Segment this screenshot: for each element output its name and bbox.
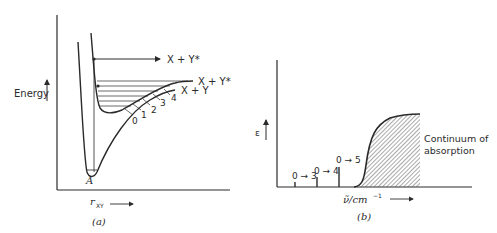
wavenumber-superscript: −1 xyxy=(373,192,382,199)
energy-label: Energy xyxy=(14,88,49,99)
figure: Energy A X + Y* X + Y* X + Y xyxy=(0,0,497,233)
caption-b: (b) xyxy=(357,211,371,222)
ground-state-curve xyxy=(78,42,175,177)
label-0-5: 0 → 5 xyxy=(336,155,361,165)
svg-text:0: 0 xyxy=(132,116,138,126)
minimum-label-a: A xyxy=(85,175,93,186)
level-labels: 0 1 2 3 4 xyxy=(125,89,177,126)
label-0-3: 0 → 3 xyxy=(292,171,317,181)
panel-a: Energy A X + Y* X + Y* X + Y xyxy=(14,15,231,227)
svg-text:4: 4 xyxy=(171,93,177,103)
svg-text:1: 1 xyxy=(141,110,147,120)
continuum-label-line2: absorption xyxy=(424,145,475,156)
svg-text:2: 2 xyxy=(151,105,157,115)
svg-text:3: 3 xyxy=(160,98,166,108)
label-0-4: 0 → 4 xyxy=(314,166,339,176)
wavenumber-label: ν̃/cm xyxy=(343,194,368,205)
epsilon-label: ε xyxy=(255,128,260,138)
panel-b: ε 0 → 3 0 → 4 0 → 5 Continuum of absorpt… xyxy=(255,60,489,222)
ground-state-label: X + Y xyxy=(181,85,210,96)
upper-arrow-label: X + Y* xyxy=(167,54,200,65)
continuum-label-line1: Continuum of xyxy=(424,133,489,144)
r-subscript: XY xyxy=(96,202,104,209)
caption-a: (a) xyxy=(92,216,106,227)
